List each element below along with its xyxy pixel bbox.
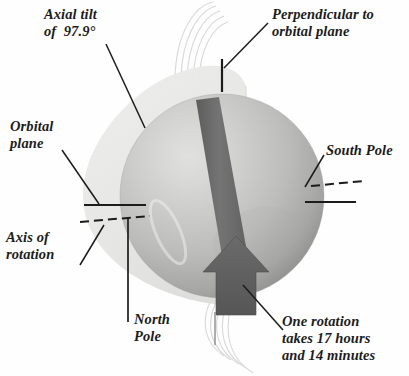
leader-perpendicular [224,23,268,68]
label-orbital-plane: Orbital plane [10,118,53,152]
label-north-pole: North Pole [134,311,170,345]
label-south-pole: South Pole [326,142,393,159]
label-axial-tilt: Axial tilt of 97.9° [44,6,97,40]
label-axis-of-rotation: Axis of rotation [6,229,54,263]
label-perpendicular-to-orbital-plane: Perpendicular to orbital plane [272,6,374,40]
label-rotation-period: One rotation takes 17 hours and 14 minut… [282,313,375,363]
uranus-axial-tilt-diagram: Axial tilt of 97.9° Perpendicular to orb… [0,0,409,376]
